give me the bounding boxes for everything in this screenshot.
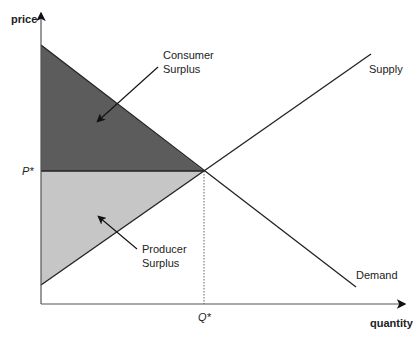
- demand-label: Demand: [356, 268, 398, 282]
- q-star-label: Q*: [198, 310, 211, 324]
- p-star-label: P*: [22, 164, 34, 178]
- y-axis-label: price: [11, 12, 37, 26]
- producer-surplus-label: Producer Surplus: [142, 242, 187, 270]
- x-axis-label: quantity: [370, 316, 413, 330]
- consumer-surplus-label: Consumer Surplus: [163, 48, 214, 76]
- supply-label: Supply: [369, 62, 403, 76]
